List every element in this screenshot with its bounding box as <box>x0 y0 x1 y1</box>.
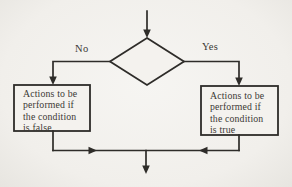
entry-arrow-icon <box>143 30 151 39</box>
decision-diamond <box>110 38 184 85</box>
flowchart-diagram: No Yes Actions to be performed if the co… <box>0 0 292 187</box>
no-branch-line <box>53 62 110 78</box>
yes-branch-arrow-icon <box>235 78 243 87</box>
collector-arrow-left-icon <box>199 147 208 154</box>
no-branch-arrow-icon <box>49 77 57 86</box>
collector-arrow-right-icon <box>89 147 98 154</box>
no-branch-label: No <box>75 43 88 55</box>
yes-branch-line <box>184 62 239 79</box>
exit-arrow-icon <box>142 166 150 175</box>
true-box-text: Actions to be performed if the condition… <box>210 90 278 135</box>
false-box-text: Actions to be performed if the condition… <box>23 88 91 133</box>
yes-branch-label: Yes <box>202 41 218 53</box>
